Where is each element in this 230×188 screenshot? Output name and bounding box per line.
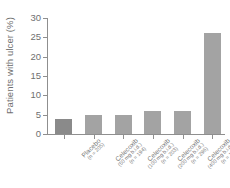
y-tick-5: 5 [47,115,48,116]
x-axis-labels: Placebo(n = 205)Celecoxib(50 mg b.i.d.)(… [47,135,230,188]
y-tick-mark [43,57,47,58]
y-tick-mark [43,95,47,96]
y-tick-mark [43,18,47,19]
y-axis-title: Patients with ulcer (%) [4,16,15,116]
y-tick-15: 15 [47,76,48,77]
y-axis-title-container: Patients with ulcer (%) [0,0,18,140]
y-tick-label: 0 [21,128,41,139]
chart-figure: Patients with ulcer (%) 051015202530 Pla… [0,0,230,188]
bar-celecoxib-4 [174,111,191,134]
y-tick-25: 25 [47,37,48,38]
bar-placebo-0 [55,119,72,134]
y-tick-20: 20 [47,57,48,58]
bar-celecoxib-1 [85,115,102,134]
y-tick-label: 25 [21,31,41,42]
bar-celecoxib-3 [144,111,161,134]
plot-area: 051015202530 [47,18,225,135]
bar-naproxen-5 [204,33,221,134]
y-tick-label: 20 [21,51,41,62]
x-axis-label-1: Celecoxib(50 mg b.i.d.)(n = 194) [112,137,147,172]
x-axis-label-3: Celecoxib(200 mg b.i.d.)(n = 296) [172,137,209,174]
y-tick-mark [43,115,47,116]
y-tick-mark [43,37,47,38]
y-tick-label: 10 [21,89,41,100]
y-tick-label: 30 [21,12,41,23]
y-tick-label: 15 [21,70,41,81]
y-tick-10: 10 [47,95,48,96]
y-tick-mark [43,76,47,77]
x-axis-label-0: Placebo(n = 205) [80,137,106,163]
y-tick-30: 30 [47,18,48,19]
bar-celecoxib-2 [115,115,132,134]
x-axis-label-2: Celecoxib(100 mg b.i.d.)(n = 203) [142,137,179,174]
x-axis-label-4: Celecoxib(400 mg b.i.d.)(n = 198) [202,137,230,174]
y-tick-label: 5 [21,109,41,120]
